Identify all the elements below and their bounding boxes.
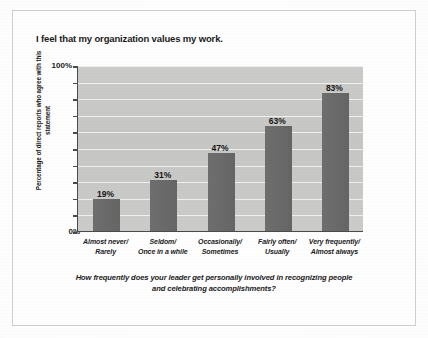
x-axis-category-label-line-1: Seldom/ (131, 237, 195, 247)
bar (208, 153, 235, 231)
x-axis-category-label-line-2: Rarely (74, 247, 138, 257)
y-axis-title: Percentage of direct reports who agree w… (35, 51, 52, 191)
bar (265, 126, 292, 231)
y-axis-tick (73, 149, 77, 151)
y-axis-title-line1: Percentage of direct reports who (35, 95, 42, 190)
gridline (78, 132, 363, 133)
x-axis-category-label-line-1: Fairly often/ (245, 237, 309, 247)
y-axis-tick (73, 182, 77, 184)
y-axis-tick (73, 132, 77, 134)
bar-value-label: 19% (81, 189, 131, 199)
bar (150, 180, 177, 231)
x-axis-category-label-line-1: Occasionally/ (188, 237, 252, 247)
x-axis-category-label: Fairly often/Usually (245, 237, 309, 256)
y-axis-tick (73, 116, 77, 118)
page-title: I feel that my organization values my wo… (36, 33, 223, 44)
bar-value-label: 47% (195, 143, 245, 153)
x-axis-category-label-line-1: Almost never/ (74, 237, 138, 247)
caption-line-1: How frequently does your leader get pers… (56, 272, 372, 283)
x-axis-category-label: Almost never/Rarely (74, 237, 138, 256)
bar-value-label: 83% (309, 83, 359, 93)
y-axis-tick (73, 166, 77, 168)
bar (93, 199, 120, 231)
figure-page: I feel that my organization values my wo… (0, 0, 428, 338)
y-axis-tick (73, 232, 77, 234)
gridline (78, 116, 363, 117)
bar-value-label: 31% (138, 170, 188, 180)
x-axis-category-label: Occasionally/Sometimes (188, 237, 252, 256)
x-axis-category-label-line-2: Usually (245, 247, 309, 257)
x-axis-category-label-line-2: Once in a while (131, 247, 195, 257)
y-axis-tick (73, 99, 77, 101)
bar-value-label: 63% (252, 116, 302, 126)
gridline (78, 66, 363, 67)
bar (322, 93, 349, 231)
x-axis-category-label-line-1: Very frequently/ (302, 237, 366, 247)
caption-line-2: and celebrating accomplishments? (56, 283, 372, 294)
gridline (78, 99, 363, 100)
x-axis-category-label: Seldom/Once in a while (131, 237, 195, 256)
x-axis-category-label-line-2: Almost always (302, 247, 366, 257)
x-axis-category-label-line-2: Sometimes (188, 247, 252, 257)
x-axis-category-label: Very frequently/Almost always (302, 237, 366, 256)
figure-caption: How frequently does your leader get pers… (56, 272, 372, 294)
y-axis-tick (73, 83, 77, 85)
y-axis-tick (73, 215, 77, 217)
y-axis-tick (73, 66, 77, 68)
y-axis-tick (73, 199, 77, 201)
